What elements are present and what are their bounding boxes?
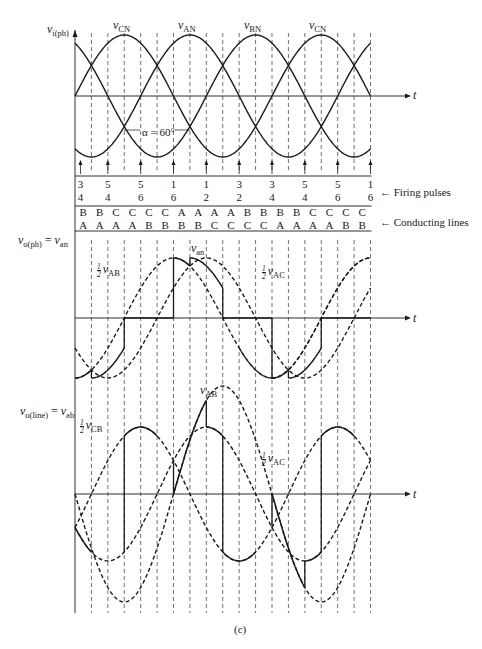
firing-pulse-1: 34 bbox=[73, 178, 87, 204]
firing-pulse-10: 16 bbox=[364, 178, 378, 204]
label-half-vac-phase: 12vAC bbox=[262, 264, 285, 280]
conducting-cell-2: BA bbox=[93, 206, 107, 231]
t-axis-label-1: t bbox=[413, 88, 416, 103]
conducting-cell-10: AC bbox=[224, 206, 238, 231]
figure-caption: (c) bbox=[234, 623, 246, 635]
t-axis-label-2: t bbox=[413, 311, 416, 326]
line-output-axis-label: vo(line) = vab bbox=[20, 404, 74, 419]
firing-pulse-3: 56 bbox=[134, 178, 148, 204]
alpha-label: α = 60° bbox=[142, 126, 175, 138]
conducting-cell-8: AB bbox=[191, 206, 205, 231]
label-vcn-2: vCN bbox=[309, 18, 326, 33]
firing-pulse-8: 54 bbox=[298, 178, 312, 204]
dashed-grid-lines bbox=[91, 33, 370, 613]
label-vab-output: vAB bbox=[200, 383, 217, 398]
input-axis-label: vi(ph) bbox=[47, 22, 69, 37]
conducting-cell-11: BC bbox=[240, 206, 254, 231]
firing-pulses-label: ← Firing pulses bbox=[380, 186, 451, 198]
conducting-cell-17: CB bbox=[339, 206, 353, 231]
firing-pulse-5: 12 bbox=[199, 178, 213, 204]
firing-pulse-6: 32 bbox=[232, 178, 246, 204]
conducting-cell-12: BC bbox=[257, 206, 271, 231]
conducting-cell-14: BA bbox=[290, 206, 304, 231]
firing-pulse-2: 54 bbox=[101, 178, 115, 204]
label-van: vAN bbox=[178, 18, 196, 33]
label-half-vac-line: 12vAC bbox=[262, 451, 285, 467]
conducting-cell-4: CA bbox=[125, 206, 139, 231]
t-axis-label-3: t bbox=[413, 487, 416, 502]
firing-pulse-7: 34 bbox=[265, 178, 279, 204]
conducting-cell-18: CB bbox=[355, 206, 369, 231]
label-half-vcb: 12vCB bbox=[80, 418, 102, 434]
conducting-cell-9: AC bbox=[208, 206, 222, 231]
conducting-cell-7: AB bbox=[175, 206, 189, 231]
conducting-cell-1: BA bbox=[76, 206, 90, 231]
conducting-cell-16: CA bbox=[322, 206, 336, 231]
conducting-cell-3: CA bbox=[109, 206, 123, 231]
conducting-cell-5: CB bbox=[142, 206, 156, 231]
firing-pulse-9: 56 bbox=[331, 178, 345, 204]
axes bbox=[73, 30, 412, 613]
label-van-output: van bbox=[191, 241, 204, 256]
conducting-cell-15: CA bbox=[306, 206, 320, 231]
label-vbn: vBN bbox=[244, 18, 261, 33]
conducting-cell-13: BA bbox=[273, 206, 287, 231]
conducting-lines-label: ← Conducting lines bbox=[380, 216, 469, 228]
conducting-cell-6: CB bbox=[158, 206, 172, 231]
firing-pulse-arrows bbox=[78, 160, 372, 174]
phase-output-axis-label: vo(ph) = van bbox=[18, 233, 68, 248]
label-vcn-1: vCN bbox=[113, 18, 130, 33]
firing-pulse-4: 16 bbox=[167, 178, 181, 204]
label-half-vab: 12vAB bbox=[97, 262, 120, 278]
waveform-figure bbox=[0, 0, 482, 649]
